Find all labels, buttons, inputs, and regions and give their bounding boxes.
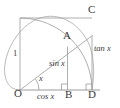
cosine-label: cos x: [37, 92, 54, 101]
point-label-d: D: [88, 89, 96, 100]
radius-length-label: 1: [13, 49, 17, 58]
point-label-o: O: [14, 88, 22, 99]
circle-outline: [5, 16, 94, 90]
sine-label: sin x: [49, 59, 65, 68]
tangent-label: tan x: [94, 44, 111, 53]
point-label-c: C: [88, 4, 95, 15]
trigonometry-figure: O A B C D 1 sin x cos x tan x x: [0, 0, 120, 108]
quarter-arc-to-d: [20, 18, 92, 90]
angle-label: x: [39, 74, 43, 83]
point-label-b: B: [65, 89, 72, 100]
point-label-a: A: [63, 30, 71, 41]
